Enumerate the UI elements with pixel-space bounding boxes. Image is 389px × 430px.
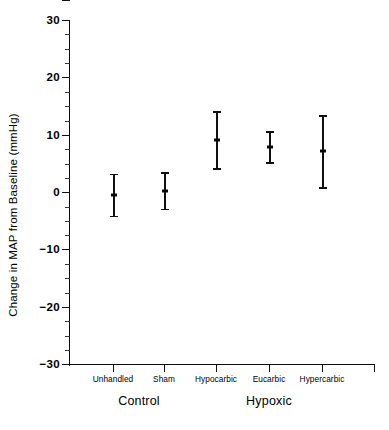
- x-tick-eucarbic: [269, 365, 270, 372]
- y-tick-major-20: [62, 77, 70, 78]
- errorbar-eucarbic: [269, 131, 270, 164]
- y-tick-major-10: [62, 135, 70, 136]
- x-tick-unhandled: [113, 365, 114, 372]
- y-tick-minor: [65, 321, 70, 322]
- x-label-hypocarbic: Hypocarbic: [195, 374, 237, 384]
- errorbar-unhandled: [113, 174, 114, 218]
- y-tick-label-0: 0: [20, 186, 60, 198]
- errorbar-cap-upper: [161, 172, 169, 174]
- y-tick-minor: [65, 106, 70, 107]
- y-tick-major-30: [62, 20, 70, 21]
- y-tick-label-group: 30 20 10 0 −10 −20 −30: [16, 0, 60, 430]
- group-label-hypoxic: Hypoxic: [246, 394, 292, 408]
- errorbar-cap-upper: [110, 174, 118, 176]
- errorbar-cap-upper: [319, 115, 327, 117]
- errorbar-cap-lower: [319, 187, 327, 189]
- x-label-sham: Sham: [153, 374, 175, 384]
- y-tick-minor: [65, 121, 70, 122]
- y-tick-minor: [65, 336, 70, 337]
- y-tick-label-neg30: −30: [20, 358, 60, 370]
- y-tick-major-0: [62, 0, 70, 1]
- x-tick-hypocarbic: [216, 365, 217, 372]
- errorbar-sham: [164, 172, 165, 210]
- x-tick-axis-end: [374, 365, 375, 372]
- errorbar-cap-upper: [266, 131, 274, 133]
- y-tick-label-30: 30: [20, 14, 60, 26]
- y-tick-label-neg20: −20: [20, 301, 60, 313]
- y-tick-major-neg20: [62, 307, 70, 308]
- errorbar-cap-lower: [213, 168, 221, 170]
- y-tick-minor: [65, 264, 70, 265]
- y-tick-major-neg30: [62, 364, 70, 365]
- y-tick-major-neg10: [62, 249, 70, 250]
- y-tick-minor: [65, 221, 70, 222]
- chart-figure: Change in MAP from Baseline (mmHg) 30 20…: [0, 0, 389, 430]
- errorbar-hypocarbic: [216, 111, 217, 169]
- errorbar-cap-lower: [161, 209, 169, 211]
- y-tick-minor: [65, 278, 70, 279]
- x-axis-line: [69, 364, 375, 365]
- y-tick-label-20: 20: [20, 71, 60, 83]
- errorbar-mean-marker: [214, 139, 220, 142]
- y-tick-minor: [65, 350, 70, 351]
- y-tick-minor: [65, 293, 70, 294]
- errorbar-hypercarbic: [322, 115, 323, 189]
- errorbar-mean-marker: [267, 145, 273, 148]
- errorbar-mean-marker: [320, 149, 326, 152]
- y-tick-label-10: 10: [20, 129, 60, 141]
- x-label-eucarbic: Eucarbic: [253, 374, 286, 384]
- x-label-unhandled: Unhandled: [93, 374, 134, 384]
- errorbar-cap-lower: [110, 216, 118, 218]
- y-tick-minor: [65, 92, 70, 93]
- y-tick-minor: [65, 207, 70, 208]
- y-tick-label-neg10: −10: [20, 243, 60, 255]
- errorbar-cap-upper: [213, 111, 221, 113]
- x-tick-hypercarbic: [322, 365, 323, 372]
- y-tick-minor: [65, 164, 70, 165]
- y-tick-minor: [65, 178, 70, 179]
- y-tick-minor: [65, 149, 70, 150]
- group-label-control: Control: [118, 394, 160, 408]
- errorbar-cap-lower: [266, 162, 274, 164]
- y-tick-minor: [65, 34, 70, 35]
- errorbar-mean-marker: [111, 193, 117, 196]
- y-tick-major-0b: [62, 192, 70, 193]
- x-tick-sham: [164, 365, 165, 372]
- y-tick-minor: [65, 49, 70, 50]
- errorbar-mean-marker: [162, 189, 168, 192]
- y-tick-minor: [65, 63, 70, 64]
- x-label-hypercarbic: Hypercarbic: [300, 374, 345, 384]
- y-tick-minor: [65, 235, 70, 236]
